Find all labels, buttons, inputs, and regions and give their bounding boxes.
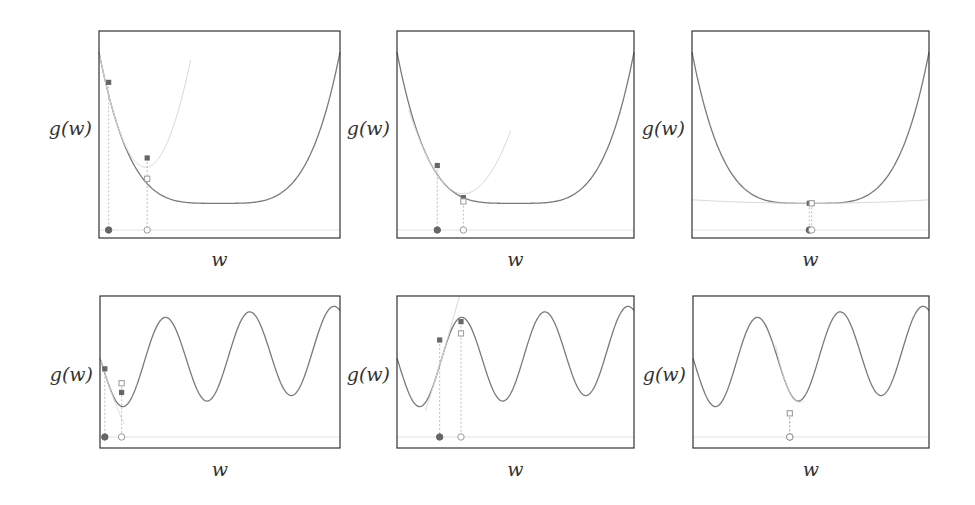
function-curve xyxy=(397,306,634,406)
start-approx-marker xyxy=(437,337,442,342)
x-axis-label: w xyxy=(507,248,523,270)
x-axis-label: w xyxy=(803,458,819,480)
next-approx-marker xyxy=(119,390,124,395)
panel-2: g(w)w xyxy=(347,31,634,270)
panel-3: g(w)w xyxy=(642,31,929,270)
function-curve xyxy=(693,306,929,406)
gradient-descent-figure: g(w)wg(w)wg(w)wg(w)wg(w)wg(w)w xyxy=(0,0,975,505)
next-weight-marker xyxy=(808,227,814,233)
plot-frame xyxy=(397,31,634,238)
start-weight-marker xyxy=(436,434,442,440)
start-approx-marker xyxy=(106,80,111,85)
panel-6: g(w)w xyxy=(643,296,929,480)
y-axis-label: g(w) xyxy=(643,363,686,385)
panel-1: g(w)w xyxy=(49,31,340,270)
approximation-curve xyxy=(425,297,459,411)
start-approx-marker xyxy=(102,366,107,371)
next-curve-marker xyxy=(145,176,150,181)
next-weight-marker xyxy=(460,227,466,233)
start-weight-marker xyxy=(105,227,111,233)
plot-frame xyxy=(99,31,340,238)
next-weight-marker xyxy=(144,227,150,233)
panel-5: g(w)w xyxy=(347,296,634,480)
x-axis-label: w xyxy=(211,248,227,270)
next-curve-marker xyxy=(461,199,466,204)
next-curve-marker xyxy=(787,411,792,416)
y-axis-label: g(w) xyxy=(49,117,92,139)
function-curve xyxy=(99,52,340,203)
next-weight-marker xyxy=(458,434,464,440)
x-axis-label: w xyxy=(212,458,228,480)
next-weight-marker xyxy=(787,434,793,440)
plot-frame xyxy=(692,31,929,238)
x-axis-label: w xyxy=(507,458,523,480)
start-weight-marker xyxy=(434,227,440,233)
next-approx-marker xyxy=(458,319,463,324)
approximation-curve xyxy=(99,52,191,167)
panel-4: g(w)w xyxy=(50,296,340,480)
next-curve-marker xyxy=(119,381,124,386)
next-curve-marker xyxy=(458,331,463,336)
x-axis-label: w xyxy=(802,248,818,270)
next-approx-marker xyxy=(145,155,150,160)
start-weight-marker xyxy=(102,434,108,440)
next-curve-marker xyxy=(809,201,814,206)
y-axis-label: g(w) xyxy=(347,117,390,139)
function-curve xyxy=(397,52,634,203)
function-curve xyxy=(100,306,340,406)
next-weight-marker xyxy=(118,434,124,440)
plot-frame xyxy=(693,296,929,448)
start-approx-marker xyxy=(435,163,440,168)
function-curve xyxy=(692,52,929,203)
plot-frame xyxy=(100,296,340,448)
y-axis-label: g(w) xyxy=(50,363,93,385)
plot-frame xyxy=(397,296,634,448)
y-axis-label: g(w) xyxy=(347,363,390,385)
y-axis-label: g(w) xyxy=(642,117,685,139)
approximation-curve xyxy=(409,110,511,194)
